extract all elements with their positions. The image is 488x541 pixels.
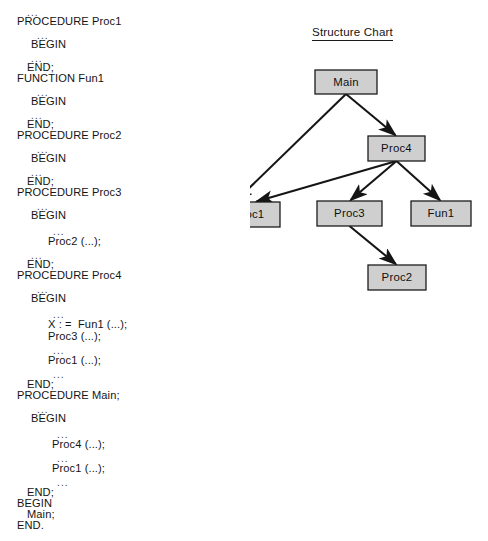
code-ellipsis-line: ... xyxy=(57,477,69,489)
code-line: Proc1 (...); xyxy=(48,355,101,367)
edge-main-to-proc1 xyxy=(250,94,346,201)
node-proc3[interactable]: Proc3 xyxy=(317,201,382,226)
code-line: FUNCTION Fun1 xyxy=(17,73,104,85)
node-main[interactable]: Main xyxy=(315,70,377,94)
node-label-proc3: Proc3 xyxy=(334,207,365,219)
pseudo-code-listing: ...PROCEDURE Proc1...BEGIN...END;FUNCTIO… xyxy=(0,0,250,541)
structure-chart-graph: MainProc4Proc1Proc3Fun1Proc2 xyxy=(250,0,488,541)
edge-proc4-to-fun1 xyxy=(397,161,440,200)
node-label-main: Main xyxy=(333,76,359,88)
code-line: PROCEDURE Proc1 xyxy=(17,16,121,28)
code-line: END. xyxy=(17,520,44,532)
code-ellipsis-line: ... xyxy=(53,369,65,381)
node-proc4[interactable]: Proc4 xyxy=(368,136,425,161)
node-proc1[interactable]: Proc1 xyxy=(250,202,280,227)
node-label-fun1: Fun1 xyxy=(428,207,455,219)
code-line: BEGIN xyxy=(31,96,66,108)
code-line: PROCEDURE Proc4 xyxy=(17,270,121,282)
code-line: Proc1 (...); xyxy=(52,463,105,475)
node-label-proc4: Proc4 xyxy=(381,142,412,154)
code-line: Proc2 (...); xyxy=(48,236,101,248)
code-line: BEGIN xyxy=(31,210,66,222)
code-line: PROCEDURE Main; xyxy=(17,390,120,402)
edge-proc3-to-proc2 xyxy=(350,226,396,264)
code-line: BEGIN xyxy=(31,293,66,305)
node-proc2[interactable]: Proc2 xyxy=(368,265,426,290)
node-label-proc2: Proc2 xyxy=(382,271,413,283)
code-line: Proc3 (...); xyxy=(48,331,101,343)
node-fun1[interactable]: Fun1 xyxy=(411,201,471,226)
code-line: BEGIN xyxy=(31,153,66,165)
code-line: PROCEDURE Proc3 xyxy=(17,187,121,199)
code-line: Proc4 (...); xyxy=(52,439,105,451)
edge-main-to-proc4 xyxy=(346,94,395,135)
code-line: PROCEDURE Proc2 xyxy=(17,130,121,142)
nodes-layer: MainProc4Proc1Proc3Fun1Proc2 xyxy=(250,70,471,290)
structure-chart-panel: Structure Chart MainProc4Proc1Proc3Fun1P… xyxy=(250,0,488,541)
code-line: BEGIN xyxy=(31,413,66,425)
edges-layer xyxy=(250,94,440,264)
node-label-proc1: Proc1 xyxy=(250,208,264,220)
edge-proc4-to-proc1 xyxy=(256,161,396,202)
code-line: BEGIN xyxy=(31,39,66,51)
code-line: X : = Fun1 (...); xyxy=(48,319,127,331)
